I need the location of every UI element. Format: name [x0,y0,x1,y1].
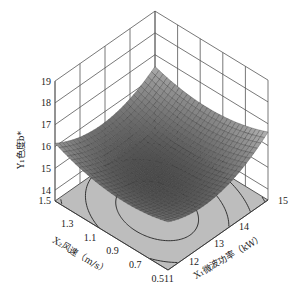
x-tick-label: 11 [164,273,174,284]
z-tick-label: 18 [41,97,51,108]
y-tick-label: 0.5 [152,273,165,284]
y-tick-label: 1.1 [84,232,97,243]
z-axis-label: Y₁色度b* [15,131,26,170]
z-tick-label: 17 [41,119,51,130]
response-surface-chart: 1415161718191.51.31.10.90.70.51112131415… [0,0,298,289]
y-tick-label: 1.3 [61,218,74,229]
z-tick-label: 15 [41,163,51,174]
surface-plot: 1415161718191.51.31.10.90.70.51112131415… [0,0,298,289]
z-tick-label: 19 [41,76,51,87]
y-tick-label: 1.5 [39,195,52,206]
x-tick-label: 12 [189,256,199,267]
y-tick-label: 0.7 [129,259,142,270]
z-tick-label: 16 [41,141,51,152]
y-axis-label: X₂风速（m/s） [51,235,109,276]
x-tick-label: 14 [239,221,249,232]
x-tick-label: 13 [214,238,224,249]
z-tick-label: 14 [41,185,51,196]
x-tick-label: 15 [278,195,288,206]
y-tick-label: 0.9 [106,245,119,256]
